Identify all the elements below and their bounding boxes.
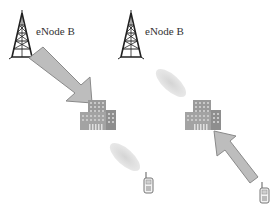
right-panel: eNode B (118, 10, 269, 203)
signal-ellipse-icon (152, 64, 191, 101)
relay-diagram: eNode B eNode B (0, 0, 280, 216)
signal-ellipse-icon (106, 138, 145, 175)
building-icon (80, 100, 116, 130)
building-icon (185, 100, 221, 130)
phone-icon (144, 172, 153, 193)
tower-icon (118, 10, 144, 59)
enodeb-label-left: eNode B (36, 25, 75, 37)
uplink-arrow-icon (214, 131, 258, 183)
downlink-arrow-icon (29, 47, 92, 103)
tower-icon (9, 10, 35, 59)
enodeb-label-right: eNode B (145, 25, 184, 37)
phone-icon (260, 182, 269, 203)
